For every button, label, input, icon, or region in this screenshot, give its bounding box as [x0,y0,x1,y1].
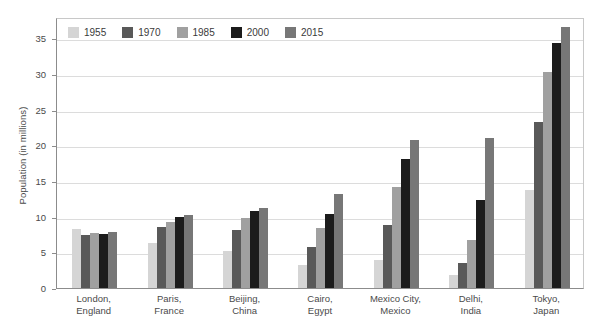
bar[interactable] [325,214,334,288]
bar[interactable] [467,240,476,288]
bar[interactable] [561,27,570,288]
x-axis-label-line1: Paris, [157,293,181,304]
bar[interactable] [307,247,316,288]
bar-group [283,19,358,288]
bar[interactable] [410,140,419,288]
legend-item-1970[interactable]: 1970 [122,27,160,38]
bar[interactable] [383,225,392,288]
x-axis-label-line2: China [207,305,282,317]
bar[interactable] [334,194,343,288]
bar[interactable] [259,208,268,288]
legend-label: 2015 [301,28,323,38]
bar[interactable] [90,233,99,288]
bar[interactable] [157,227,166,288]
x-axis-label-line2: Japan [509,305,584,317]
y-tick-label: 0 [6,284,46,294]
x-axis-label: Tokyo,Japan [509,293,584,317]
y-tick-label: 25 [6,106,46,116]
x-axis-label: Cairo,Egypt [282,293,357,317]
legend-swatch-icon [177,27,188,38]
bar-group [510,19,585,288]
y-tick-mark [52,75,56,76]
bar-group [359,19,434,288]
x-axis-label-line2: Egypt [282,305,357,317]
y-tick-mark [52,289,56,290]
x-axis-label-line1: Beijing, [229,293,260,304]
y-tick-label: 5 [6,248,46,258]
bar[interactable] [449,275,458,288]
legend-swatch-icon [122,27,133,38]
x-axis-label: Beijing,China [207,293,282,317]
y-tick-mark [52,39,56,40]
bar-chart: Population (in millions) 05101520253035 … [0,0,593,334]
legend-swatch-icon [231,27,242,38]
bar[interactable] [525,190,534,288]
bar[interactable] [184,215,193,288]
bar[interactable] [108,232,117,288]
x-axis-label-line1: Delhi, [459,293,483,304]
bar-group [132,19,207,288]
x-axis-label-line2: France [131,305,206,317]
y-tick-label: 30 [6,70,46,80]
bar[interactable] [298,265,307,288]
bar[interactable] [392,187,401,288]
legend-label: 1970 [138,28,160,38]
legend-item-1985[interactable]: 1985 [177,27,215,38]
bar-group [208,19,283,288]
bar[interactable] [99,234,108,288]
x-axis-label-line1: Cairo, [307,293,332,304]
x-axis-label: London,England [56,293,131,317]
bar[interactable] [476,200,485,288]
bar[interactable] [485,138,494,288]
y-tick-label: 20 [6,141,46,151]
plot-area [57,19,583,288]
bar[interactable] [401,159,410,288]
legend-label: 1955 [84,28,106,38]
y-axis-title: Population (in millions) [17,76,28,236]
x-axis-label-line2: Mexico [358,305,433,317]
bar[interactable] [250,211,259,288]
bar[interactable] [543,72,552,288]
x-axis-label-line2: India [433,305,508,317]
bar[interactable] [232,230,241,288]
y-tick-label: 35 [6,34,46,44]
bar[interactable] [166,222,175,288]
bar[interactable] [223,251,232,288]
bar[interactable] [175,217,184,288]
y-tick-mark [52,218,56,219]
legend-item-2000[interactable]: 2000 [231,27,269,38]
x-axis-label-line1: London, [77,293,111,304]
plot-frame [56,18,584,289]
y-tick-label: 10 [6,213,46,223]
y-tick-mark [52,253,56,254]
y-tick-label: 15 [6,177,46,187]
bar[interactable] [81,235,90,288]
x-axis-label: Paris,France [131,293,206,317]
y-tick-mark [52,182,56,183]
y-tick-mark [52,146,56,147]
bar[interactable] [458,263,467,288]
legend-label: 1985 [193,28,215,38]
bar-group [434,19,509,288]
x-axis-label: Delhi,India [433,293,508,317]
bar-group [57,19,132,288]
x-axis-label-line1: Tokyo, [533,293,560,304]
x-axis-labels: London,EnglandParis,FranceBeijing,ChinaC… [56,293,584,327]
legend-item-1955[interactable]: 1955 [68,27,106,38]
legend-swatch-icon [285,27,296,38]
bars-layer [57,19,583,288]
legend-item-2015[interactable]: 2015 [285,27,323,38]
chart-legend: 19551970198520002015 [68,27,323,38]
bar[interactable] [316,228,325,288]
bar[interactable] [241,218,250,288]
x-axis-label-line1: Mexico City, [370,293,421,304]
bar[interactable] [534,122,543,288]
legend-label: 2000 [247,28,269,38]
legend-swatch-icon [68,27,79,38]
bar[interactable] [72,229,81,288]
bar[interactable] [374,260,383,288]
y-tick-mark [52,111,56,112]
x-axis-label: Mexico City,Mexico [358,293,433,317]
bar[interactable] [552,43,561,288]
bar[interactable] [148,243,157,288]
